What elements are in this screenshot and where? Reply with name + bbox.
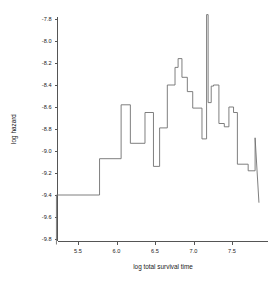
x-tick-label: 6.5: [151, 248, 159, 254]
y-tick-label: -9.6: [42, 214, 52, 220]
chart-figure: -7.8-8.0-8.2-8.4-8.6-8.8-9.0-9.2-9.4-9.6…: [0, 0, 276, 282]
y-tick-label: -9.4: [42, 192, 52, 198]
y-tick-label: -8.0: [42, 38, 52, 44]
y-tick-label: -9.2: [42, 170, 52, 176]
y-tick-label: -9.0: [42, 148, 52, 154]
y-axis-title: log hazard: [10, 114, 18, 144]
hazard-step-line: [56, 15, 259, 245]
y-tick-label: -8.8: [42, 126, 52, 132]
x-tick-label: 5.5: [74, 248, 82, 254]
y-tick-label: -8.2: [42, 60, 52, 66]
x-tick-label: 7.5: [228, 248, 236, 254]
y-axis-ticks: -7.8-8.0-8.2-8.4-8.6-8.8-9.0-9.2-9.4-9.6…: [42, 16, 58, 242]
x-tick-label: 6.0: [113, 248, 121, 254]
x-axis-ticks: 5.56.06.57.07.5: [74, 242, 236, 254]
y-tick-label: -7.8: [42, 16, 52, 22]
hazard-step-plot: -7.8-8.0-8.2-8.4-8.6-8.8-9.0-9.2-9.4-9.6…: [0, 0, 276, 282]
y-tick-label: -9.8: [42, 236, 52, 242]
y-tick-label: -8.4: [42, 82, 52, 88]
y-tick-label: -8.6: [42, 104, 52, 110]
x-tick-label: 7.0: [190, 248, 198, 254]
x-axis-title: log total survival time: [133, 263, 193, 271]
